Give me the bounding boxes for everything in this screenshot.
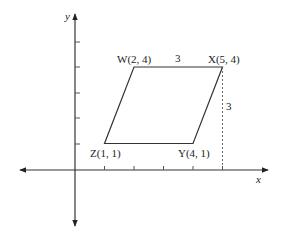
top-side-length-label: 3 bbox=[175, 52, 181, 64]
point-label-z: Z(1, 1) bbox=[90, 147, 121, 160]
x-axis-label: x bbox=[255, 173, 261, 185]
point-label-w: W(2, 4) bbox=[117, 53, 152, 66]
point-label-x: X(5, 4) bbox=[208, 53, 240, 66]
parallelogram-wxyz bbox=[105, 67, 223, 144]
y-axis-label: y bbox=[64, 10, 70, 22]
height-length-label: 3 bbox=[226, 100, 232, 112]
point-label-y: Y(4, 1) bbox=[178, 147, 210, 160]
y-axis-ticks bbox=[75, 42, 80, 144]
coordinate-plane-diagram: y x W(2, 4) X(5, 4) Y(4, 1) Z(1, 1) 3 3 bbox=[0, 0, 281, 235]
